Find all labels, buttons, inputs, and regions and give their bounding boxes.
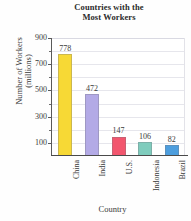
bar-value-label: 147 <box>113 127 125 135</box>
x-axis-line <box>51 155 188 156</box>
chart-title: Countries with the Most Workers <box>34 2 184 22</box>
bar-fill <box>112 137 126 156</box>
x-category-label: India <box>97 160 108 206</box>
y-tick-label: 900 <box>35 34 47 42</box>
bar-value-label: 106 <box>139 133 151 141</box>
y-tick-label: 700 <box>35 60 47 68</box>
plot-area: 900700500300100 77847214710682 <box>52 38 185 156</box>
bar-value-label: 472 <box>86 85 98 93</box>
bar-china[interactable]: 778 <box>58 54 72 156</box>
x-axis-title: Country <box>40 204 185 214</box>
y-tick-label: 500 <box>35 86 47 94</box>
y-tick-label: 300 <box>35 113 47 121</box>
bar-chart: Countries with the Most Workers Number o… <box>0 0 191 221</box>
chart-title-line-2: Most Workers <box>34 12 184 22</box>
chart-title-line-1: Countries with the <box>34 2 184 12</box>
bar-fill <box>85 94 99 156</box>
y-axis-title-line-2: (millions) <box>24 37 34 105</box>
bar-value-label: 82 <box>168 136 176 144</box>
y-axis-line <box>51 38 52 156</box>
bar-u-s[interactable]: 147 <box>112 137 126 156</box>
gridline <box>52 51 185 52</box>
x-category-label: U.S. <box>124 160 135 206</box>
y-axis-title: Number of Workers (millions) <box>11 11 37 131</box>
x-category-label: Indonesia <box>151 160 162 206</box>
bar-value-label: 778 <box>59 45 71 53</box>
gridline <box>52 38 185 39</box>
bar-indonesia[interactable]: 106 <box>138 142 152 156</box>
bar-india[interactable]: 472 <box>85 94 99 156</box>
x-category-label: Brazil <box>177 160 188 206</box>
plot-right-edge <box>184 38 185 156</box>
bar-fill <box>138 142 152 156</box>
x-category-label: China <box>71 160 82 206</box>
y-tick-label: 100 <box>35 139 47 147</box>
bar-fill <box>58 54 72 156</box>
